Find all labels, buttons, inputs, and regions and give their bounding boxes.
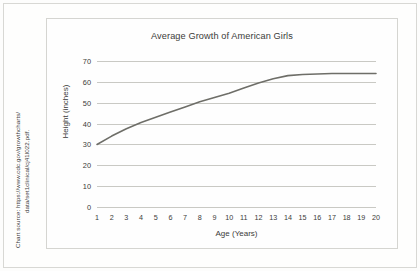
chart-title: Average Growth of American Girls [47, 31, 397, 41]
y-tick-label: 50 [83, 98, 91, 107]
x-tick-label: 6 [168, 213, 172, 222]
y-tick-label: 60 [83, 77, 91, 86]
data-line [97, 74, 376, 145]
x-tick-label: 12 [255, 213, 263, 222]
x-tick-label: 8 [198, 213, 202, 222]
x-tick-label: 9 [212, 213, 216, 222]
x-tick-label: 16 [313, 213, 321, 222]
x-tick-label: 7 [183, 213, 187, 222]
y-tick-label: 70 [83, 57, 91, 66]
y-tick-label: 20 [83, 161, 91, 170]
y-tick-label: 10 [83, 182, 91, 191]
x-axis-title: Age (Years) [97, 229, 376, 238]
x-tick-label: 18 [343, 213, 351, 222]
x-tick-label: 2 [110, 213, 114, 222]
chart-frame: Average Growth of American Girls Height … [46, 18, 398, 249]
x-tick-label: 11 [240, 213, 247, 222]
x-tick-label: 1 [95, 213, 99, 222]
x-axis-labels: 1234567891011121314151617181920 [97, 213, 376, 225]
y-axis-title: Height (inches) [61, 52, 70, 172]
x-tick-label: 3 [124, 213, 128, 222]
gridline [97, 207, 376, 208]
x-tick-label: 15 [299, 213, 307, 222]
plot-area: 010203040506070 123456789101112131415161… [97, 61, 376, 207]
line-series-average-growth [97, 61, 376, 207]
x-tick-label: 13 [269, 213, 277, 222]
x-tick-label: 10 [225, 213, 233, 222]
x-tick-label: 19 [357, 213, 365, 222]
screenshot-page: Chart source: https://www.cdc.gov/growth… [0, 0, 420, 271]
x-tick-label: 14 [284, 213, 292, 222]
y-tick-label: 40 [83, 119, 91, 128]
x-tick-label: 4 [139, 213, 143, 222]
x-tick-label: 20 [372, 213, 380, 222]
y-tick-label: 0 [87, 203, 91, 212]
x-tick-label: 5 [154, 213, 158, 222]
chart-source-line-1: Chart source: https://www.cdc.gov/growth… [14, 18, 23, 248]
x-tick-label: 17 [328, 213, 336, 222]
y-tick-label: 30 [83, 140, 91, 149]
chart-source-line-2: data/set1clinical/cj41l022.pdf. [23, 18, 32, 248]
chart-source-note: Chart source: https://www.cdc.gov/growth… [14, 18, 48, 248]
